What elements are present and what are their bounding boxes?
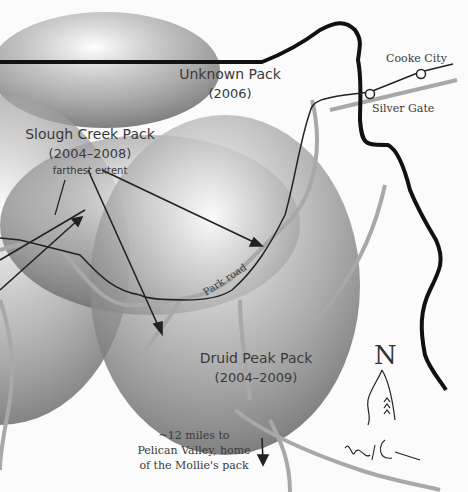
note-line-3: of the Mollie's pack: [130, 458, 258, 473]
druid-peak-pack-label: Druid Peak Pack (2004–2009): [186, 348, 326, 388]
pack-name: Slough Creek Pack: [20, 124, 160, 144]
slough-creek-pack-label: Slough Creek Pack (2004–2008) farthest e…: [20, 124, 160, 178]
silver-gate-marker: [366, 90, 375, 99]
compass-north-label: N: [374, 340, 397, 370]
pack-years: (2006): [160, 84, 300, 104]
farthest-extent-annotation: farthest extent: [20, 164, 160, 178]
unknown-pack-label: Unknown Pack (2006): [160, 64, 300, 104]
pack-name: Unknown Pack: [160, 64, 300, 84]
town-label-cooke-city: Cooke City: [386, 52, 447, 65]
note-line-1: ~12 miles to: [130, 428, 258, 443]
note-line-2: Pelican Valley, home: [130, 443, 258, 458]
pack-years: (2004–2009): [186, 368, 326, 388]
pack-years: (2004–2008): [20, 144, 160, 164]
cooke-city-marker: [417, 70, 426, 79]
pack-name: Druid Peak Pack: [186, 348, 326, 368]
wolf-head-icon: [368, 370, 395, 425]
town-label-silver-gate: Silver Gate: [372, 102, 434, 115]
signature: [345, 440, 420, 460]
pelican-valley-note: ~12 miles to Pelican Valley, home of the…: [130, 428, 258, 473]
